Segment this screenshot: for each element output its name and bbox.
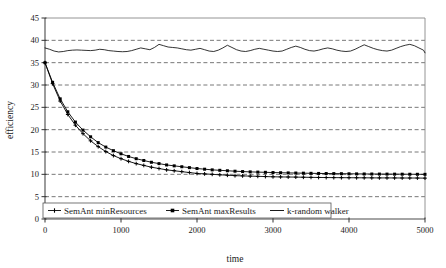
y-tick-label-35: 35 <box>31 58 40 68</box>
data-point-marker <box>386 173 389 176</box>
data-point-marker <box>393 173 396 176</box>
data-point-marker <box>332 172 335 175</box>
y-tick-label-25: 25 <box>31 102 40 112</box>
data-point-marker <box>424 173 427 176</box>
data-point-marker <box>196 167 199 170</box>
data-point-marker <box>226 169 229 172</box>
data-point-marker <box>401 173 404 176</box>
data-point-marker <box>249 170 252 173</box>
x-tick-label-2000: 2000 <box>189 225 206 235</box>
data-point-marker <box>158 162 161 165</box>
x-tick-label-0: 0 <box>43 225 47 235</box>
data-point-marker <box>180 165 183 168</box>
data-point-marker <box>112 149 115 152</box>
legend-marker-square-icon <box>171 209 175 213</box>
data-point-marker <box>66 110 69 113</box>
data-point-marker <box>59 97 62 100</box>
y-tick-label-40: 40 <box>31 35 40 45</box>
data-point-marker <box>294 172 297 175</box>
data-point-marker <box>234 170 237 173</box>
data-point-marker <box>188 166 191 169</box>
x-tick-label-5000: 5000 <box>417 225 434 235</box>
data-point-marker <box>317 172 320 175</box>
data-point-marker <box>370 173 373 176</box>
data-point-marker <box>340 172 343 175</box>
x-tick-label-3000: 3000 <box>265 225 282 235</box>
data-point-marker <box>150 161 153 164</box>
data-point-marker <box>104 146 107 149</box>
data-point-marker <box>165 163 168 166</box>
data-point-marker <box>325 172 328 175</box>
data-point-marker <box>135 157 138 160</box>
y-tick-label-45: 45 <box>31 13 40 23</box>
efficiency-vs-time-line-chart: 051015202530354045010002000300040005000 … <box>0 0 446 268</box>
y-tick-label-30: 30 <box>31 80 40 90</box>
data-point-marker <box>241 170 244 173</box>
data-point-marker <box>416 173 419 176</box>
x-tick-label-4000: 4000 <box>341 225 358 235</box>
data-point-marker <box>203 168 206 171</box>
data-point-marker <box>82 129 85 132</box>
data-point-marker <box>218 169 221 172</box>
data-point-marker <box>97 141 100 144</box>
y-tick-label-10: 10 <box>31 169 40 179</box>
data-point-marker <box>264 171 267 174</box>
data-point-marker <box>302 172 305 175</box>
chart-container: 051015202530354045010002000300040005000 … <box>0 0 446 268</box>
y-tick-label-0: 0 <box>35 214 39 224</box>
y-tick-label-15: 15 <box>31 147 40 157</box>
data-point-marker <box>173 164 176 167</box>
legend-label: k-random walker <box>287 206 349 216</box>
data-point-marker <box>74 121 77 124</box>
data-point-marker <box>142 159 145 162</box>
data-point-marker <box>272 171 275 174</box>
data-point-marker <box>310 172 313 175</box>
y-tick-label-20: 20 <box>31 125 40 135</box>
legend-label: SemAnt maxResults <box>182 206 256 216</box>
data-point-marker <box>211 168 214 171</box>
y-axis-title: efficiency <box>5 101 15 139</box>
data-point-marker <box>378 173 381 176</box>
data-point-marker <box>127 155 130 158</box>
legend-label: SemAnt minResources <box>64 206 147 216</box>
data-point-marker <box>287 171 290 174</box>
data-point-marker <box>44 61 47 64</box>
chart-legend[interactable]: SemAnt minResourcesSemAnt maxResultsk-ra… <box>43 203 349 218</box>
data-point-marker <box>89 135 92 138</box>
data-point-marker <box>120 152 123 155</box>
data-point-marker <box>408 173 411 176</box>
x-tick-label-1000: 1000 <box>113 225 130 235</box>
x-axis-title: time <box>227 254 244 264</box>
y-tick-label-5: 5 <box>35 192 39 202</box>
data-point-marker <box>51 81 54 84</box>
data-point-marker <box>363 172 366 175</box>
data-point-marker <box>355 172 358 175</box>
data-point-marker <box>279 171 282 174</box>
data-point-marker <box>256 171 259 174</box>
data-point-marker <box>348 172 351 175</box>
